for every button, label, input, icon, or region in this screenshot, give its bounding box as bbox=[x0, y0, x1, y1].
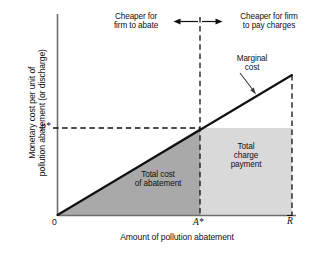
marginal-cost-pointer-icon bbox=[240, 73, 256, 95]
x-tick-origin: 0 bbox=[52, 217, 57, 227]
annotation-marginal-cost: Marginal cost bbox=[224, 54, 280, 72]
x-tick-r-bar: R bbox=[287, 216, 293, 226]
label-total-cost-of-abatement: Total cost of abatement bbox=[120, 170, 196, 188]
annotation-cheaper-to-pay: Cheaper for firm to pay charges bbox=[222, 12, 316, 30]
r-bar-glyph: R bbox=[287, 216, 293, 226]
label-total-charge-payment: Total charge payment bbox=[216, 142, 276, 170]
right-arrow-icon bbox=[202, 19, 223, 25]
left-arrow-icon bbox=[174, 19, 199, 25]
annotation-cheaper-to-abate: Cheaper for firm to abate bbox=[96, 12, 176, 30]
x-tick-a-star: A* bbox=[193, 217, 204, 227]
pollution-abatement-chart: Cheaper for firm to abate Cheaper for fi… bbox=[0, 0, 321, 257]
x-axis-title: Amount of pollution abatement bbox=[57, 233, 297, 243]
y-axis-title: Monetary cost per unit of pollution abat… bbox=[28, 13, 47, 213]
